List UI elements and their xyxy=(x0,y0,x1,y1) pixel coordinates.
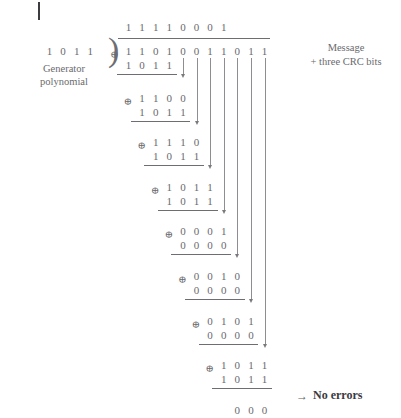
quotient-bit-7: 1 xyxy=(218,22,229,33)
dropdown-arrow-bit-6 xyxy=(208,165,212,169)
remainder-bit-0: 0 xyxy=(232,405,243,416)
step-2-divisor-bit-3: 1 xyxy=(177,107,188,118)
xor-symbol-step-2: ⊕ xyxy=(124,97,132,107)
generator-bit-0: 1 xyxy=(44,46,55,57)
dropdown-arrow-bit-8 xyxy=(235,254,239,258)
step-4-rule xyxy=(158,210,218,211)
step-2-partial-bit-0: 1 xyxy=(137,93,148,104)
step-8-rule xyxy=(212,388,272,389)
message-bit-3: 1 xyxy=(164,46,175,57)
xor-symbol-step-8: ⊕ xyxy=(205,364,213,374)
message-label-line1: Message xyxy=(296,41,396,54)
step-3-divisor-bit-2: 1 xyxy=(177,151,188,162)
step-4-divisor-bit-1: 0 xyxy=(177,196,188,207)
step-5-rule xyxy=(171,254,231,255)
step-2-partial-bit-3: 0 xyxy=(177,93,188,104)
message-bit-9: 1 xyxy=(245,46,256,57)
dropdown-arrow-bit-4 xyxy=(181,74,185,78)
quotient-bit-2: 1 xyxy=(150,22,161,33)
crc-division-figure: Generator polynomial Message + three CRC… xyxy=(0,0,401,418)
step-4-partial-bit-2: 1 xyxy=(191,182,202,193)
division-bracket-top-rule xyxy=(118,38,270,39)
step-2-divisor-bit-1: 0 xyxy=(150,107,161,118)
generator-polynomial-label-line2: polynomial xyxy=(16,75,112,88)
dropdown-line-bit-6 xyxy=(210,58,211,165)
step-5-divisor-bit-3: 0 xyxy=(218,240,229,251)
xor-symbol-step-4: ⊕ xyxy=(151,186,159,196)
step-5-divisor-bit-1: 0 xyxy=(191,240,202,251)
step-8-partial-bit-2: 1 xyxy=(245,360,256,371)
remainder-bit-2: 0 xyxy=(259,405,270,416)
step-6-divisor-bit-2: 0 xyxy=(218,285,229,296)
xor-symbol-step-3: ⊕ xyxy=(137,141,145,151)
conclusion-arrow-icon: → xyxy=(296,389,308,403)
message-label-line2: + three CRC bits xyxy=(288,55,401,68)
step-7-divisor-bit-3: 0 xyxy=(245,330,256,341)
quotient-bit-4: 0 xyxy=(177,22,188,33)
step-6-divisor-bit-3: 0 xyxy=(232,285,243,296)
generator-bit-2: 1 xyxy=(71,46,82,57)
step-3-divisor-bit-1: 0 xyxy=(164,151,175,162)
step-6-divisor-bit-0: 0 xyxy=(191,285,202,296)
step-8-divisor-bit-3: 1 xyxy=(259,374,270,385)
step-5-partial-bit-0: 0 xyxy=(177,226,188,237)
step-7-partial-bit-3: 1 xyxy=(245,316,256,327)
step-8-partial-bit-0: 1 xyxy=(218,360,229,371)
step-4-divisor-bit-2: 1 xyxy=(191,196,202,207)
step-7-divisor-bit-0: 0 xyxy=(205,330,216,341)
step-2-divisor-bit-0: 1 xyxy=(137,107,148,118)
step-6-partial-bit-2: 1 xyxy=(218,271,229,282)
step-6-rule xyxy=(185,299,245,300)
message-bit-0: 1 xyxy=(123,46,134,57)
quotient-bit-5: 0 xyxy=(191,22,202,33)
message-bit-7: 1 xyxy=(218,46,229,57)
step-4-partial-bit-1: 0 xyxy=(177,182,188,193)
step-5-partial-bit-3: 1 xyxy=(218,226,229,237)
message-bit-1: 1 xyxy=(137,46,148,57)
message-bit-4: 0 xyxy=(177,46,188,57)
step-7-partial-bit-0: 0 xyxy=(205,316,216,327)
xor-symbol-step-7: ⊕ xyxy=(192,320,200,330)
step-8-divisor-bit-2: 1 xyxy=(245,374,256,385)
dropdown-arrow-bit-7 xyxy=(222,210,226,214)
quotient-bit-6: 0 xyxy=(205,22,216,33)
step-1-rule xyxy=(117,74,177,75)
xor-symbol-step-1: ⊕ xyxy=(110,50,118,60)
generator-polynomial-label-line1: Generator xyxy=(16,62,112,75)
step-4-partial-bit-3: 1 xyxy=(205,182,216,193)
generator-bit-3: 1 xyxy=(85,46,96,57)
xor-symbol-step-6: ⊕ xyxy=(178,275,186,285)
step-3-divisor-bit-3: 1 xyxy=(191,151,202,162)
dropdown-arrow-bit-5 xyxy=(195,121,199,125)
step-7-partial-bit-1: 1 xyxy=(218,316,229,327)
step-3-rule xyxy=(144,165,204,166)
step-3-partial-bit-0: 1 xyxy=(150,137,161,148)
step-5-partial-bit-1: 0 xyxy=(191,226,202,237)
generator-bit-1: 0 xyxy=(58,46,69,57)
dropdown-arrow-bit-9 xyxy=(249,299,253,303)
step-7-partial-bit-2: 0 xyxy=(232,316,243,327)
message-bit-6: 1 xyxy=(205,46,216,57)
step-8-partial-bit-3: 1 xyxy=(259,360,270,371)
message-bit-8: 0 xyxy=(232,46,243,57)
step-7-rule xyxy=(199,344,259,345)
step-2-rule xyxy=(131,121,191,122)
step-7-divisor-bit-2: 0 xyxy=(232,330,243,341)
step-8-divisor-bit-0: 1 xyxy=(218,374,229,385)
step-8-divisor-bit-1: 0 xyxy=(232,374,243,385)
step-5-divisor-bit-0: 0 xyxy=(177,240,188,251)
step-1-divisor-bit-3: 1 xyxy=(164,60,175,71)
page-edge-marker xyxy=(38,2,40,20)
step-6-partial-bit-3: 0 xyxy=(232,271,243,282)
dropdown-line-bit-5 xyxy=(197,58,198,121)
dropdown-line-bit-7 xyxy=(224,58,225,210)
message-bit-2: 0 xyxy=(150,46,161,57)
dropdown-arrow-bit-10 xyxy=(263,344,267,348)
step-5-partial-bit-2: 0 xyxy=(205,226,216,237)
step-6-partial-bit-0: 0 xyxy=(191,271,202,282)
step-3-partial-bit-2: 1 xyxy=(177,137,188,148)
message-bit-5: 0 xyxy=(191,46,202,57)
xor-symbol-step-5: ⊕ xyxy=(164,230,172,240)
quotient-bit-1: 1 xyxy=(137,22,148,33)
step-2-divisor-bit-2: 1 xyxy=(164,107,175,118)
